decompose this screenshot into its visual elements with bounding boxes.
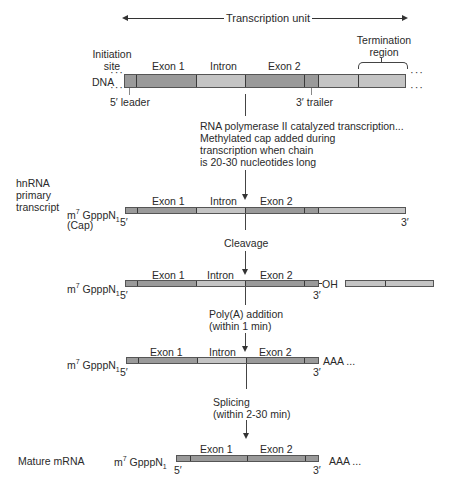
splicing-step-text: Splicing (within 2-30 min): [213, 396, 291, 420]
exon2-label: Exon 2: [268, 60, 301, 72]
hnrna-trailer-segment: [305, 208, 319, 213]
hnrna-5-end: 5′: [120, 216, 128, 228]
mature-exon2-segment: [248, 456, 306, 461]
hnrna-exon1-segment: [138, 208, 197, 213]
hnrna-exon2-segment: [246, 208, 305, 213]
mature-mrna-bar: [176, 455, 319, 462]
polya-leader-segment: [127, 358, 139, 363]
mature-exon2-label: Exon 2: [260, 443, 293, 455]
polya-exon2-segment: [247, 358, 305, 363]
mature-5-end: 5′: [174, 464, 182, 476]
arrow-left-head-icon: [122, 15, 128, 21]
step1-arrowhead-icon: [242, 194, 248, 200]
dna-5-leader-segment: [125, 75, 137, 87]
cleaved-oh-label: OH: [322, 278, 338, 290]
cleaved-intron-segment: [197, 281, 246, 286]
polya-tail-label: AAA ...: [323, 355, 355, 367]
fragment-segment-a: [346, 281, 386, 286]
polya-5-end: 5′: [120, 366, 128, 378]
hnrna-cap-note: (Cap): [67, 219, 93, 231]
cleaved-5-end: 5′: [120, 289, 128, 301]
step3-connector: [245, 287, 246, 305]
dna-right-dots-bottom: ···: [410, 83, 424, 91]
mature-leader-segment: [177, 456, 191, 461]
polya-cap-label: m7 GpppN1: [67, 356, 120, 376]
dna-termination-segment: [359, 75, 406, 87]
3-trailer-pointer: [311, 88, 312, 95]
cleaved-3-end: 3′: [313, 289, 321, 301]
polya-step-text: Poly(A) addition (within 1 min): [209, 308, 283, 332]
cleaved-fragment-bar: [345, 280, 434, 287]
dna-left-dots-top: ···: [110, 68, 124, 76]
mature-exon1-label: Exon 1: [200, 443, 233, 455]
step2-connector: [245, 214, 246, 230]
dna-post-trailer-segment: [319, 75, 359, 87]
intron-label: Intron: [210, 60, 237, 72]
termination-brace: [358, 62, 408, 69]
hnrna-3-end: 3′: [401, 216, 409, 228]
hnrna-side-label: hnRNA primary transcript: [16, 177, 59, 213]
cleaved-exon1-segment: [138, 281, 197, 286]
step1-arrow-shaft: [245, 170, 246, 196]
cleaved-cap-label: m7 GpppN1: [67, 280, 120, 300]
cleaved-exon2-segment: [246, 281, 305, 286]
dna-intron-segment: [197, 75, 246, 87]
polya-trailer-segment: [305, 358, 319, 363]
dna-exon1-segment: [137, 75, 197, 87]
mature-exon1-segment: [191, 456, 248, 461]
hnrna-intron-segment: [197, 208, 246, 213]
polya-intron-segment: [198, 358, 247, 363]
hnrna-exon2-label: Exon 2: [260, 195, 293, 207]
hnrna-bar: [125, 207, 406, 214]
dna-left-dots-bottom: ···: [110, 83, 124, 91]
mature-cap-label: m7 GpppN1: [114, 453, 167, 473]
polya-bar: [126, 357, 319, 364]
mature-3-end: 3′: [313, 464, 321, 476]
step1-connector: [245, 94, 246, 116]
step3-arrowhead-icon: [242, 346, 248, 352]
dna-right-dots-top: ···: [410, 68, 424, 76]
cleaved-bar: [125, 280, 319, 287]
fragment-segment-b: [386, 281, 434, 286]
polya-3-end: 3′: [313, 366, 321, 378]
dna-bar: [124, 74, 406, 88]
step4-arrowhead-icon: [243, 433, 249, 439]
5-leader-pointer: [129, 88, 130, 95]
termination-brace-tip: [381, 58, 382, 62]
cleaved-leader-segment: [126, 281, 138, 286]
exon1-label: Exon 1: [152, 60, 185, 72]
cleavage-label: Cleavage: [224, 237, 268, 249]
hnrna-exon1-label: Exon 1: [152, 195, 185, 207]
mature-tail-label: AAA ...: [329, 455, 361, 467]
step2-arrowhead-icon: [242, 269, 248, 275]
3-trailer-label: 3′ trailer: [296, 96, 333, 108]
dna-exon2-segment: [246, 75, 305, 87]
hnrna-intron-label: Intron: [210, 195, 237, 207]
step2-arrow-shaft: [245, 251, 246, 271]
mature-trailer-segment: [306, 456, 319, 461]
hnrna-leader-segment: [126, 208, 138, 213]
polya-exon1-segment: [139, 358, 198, 363]
dna-3-trailer-segment: [305, 75, 319, 87]
step4-connector: [246, 364, 247, 389]
5-leader-label: 5′ leader: [110, 96, 150, 108]
hnrna-tail-segment: [319, 208, 406, 213]
transcription-unit-label: Transcription unit: [224, 12, 312, 24]
step1-text: RNA polymerase II catalyzed transcriptio…: [200, 120, 404, 168]
arrow-right-head-icon: [402, 15, 408, 21]
termination-region-label: Termination region: [352, 34, 416, 58]
cleaved-trailer-segment: [305, 281, 319, 286]
mature-mrna-side-label: Mature mRNA: [18, 455, 85, 467]
